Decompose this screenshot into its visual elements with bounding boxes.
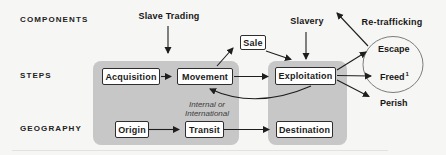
label-re-trafficking: Re-trafficking xyxy=(362,17,423,27)
step-box-movement: Movement xyxy=(177,68,233,85)
row-label-geography: GEOGRAPHY xyxy=(20,124,82,133)
trafficking-process-diagram: COMPONENTS STEPS GEOGRAPHY Slave Trading… xyxy=(0,0,446,155)
movement-scope-note-line2: International xyxy=(185,110,229,119)
outcome-perish: Perish xyxy=(380,98,408,108)
arrow-exploitation-to-perish xyxy=(337,80,369,97)
label-slavery: Slavery xyxy=(290,16,323,26)
label-slave-trading: Slave Trading xyxy=(138,11,199,21)
step-box-exploitation: Exploitation xyxy=(275,67,336,85)
arrow-exploitation-back-to-movement xyxy=(210,86,311,99)
row-label-steps: STEPS xyxy=(20,71,52,80)
geography-box-destination: Destination xyxy=(276,121,333,138)
movement-scope-note: Internal or International xyxy=(185,101,229,118)
arrow-exploitation-to-freed xyxy=(337,76,371,77)
arrow-movement-to-sale xyxy=(217,48,233,66)
geography-box-origin: Origin xyxy=(115,121,149,138)
row-label-components: COMPONENTS xyxy=(20,15,88,24)
outcome-escape: Escape xyxy=(378,44,410,54)
arrow-exploitation-to-escape xyxy=(337,52,366,70)
arrow-sale-to-exploitation xyxy=(266,51,291,60)
outcome-freed-text: Freed xyxy=(380,72,405,82)
step-box-acquisition: Acquisition xyxy=(102,68,160,85)
freed-footnote-marker: 1 xyxy=(406,71,409,77)
step-box-sale: Sale xyxy=(240,35,266,50)
geography-box-transit: Transit xyxy=(185,121,224,138)
outcome-freed: Freed1 xyxy=(380,71,409,82)
